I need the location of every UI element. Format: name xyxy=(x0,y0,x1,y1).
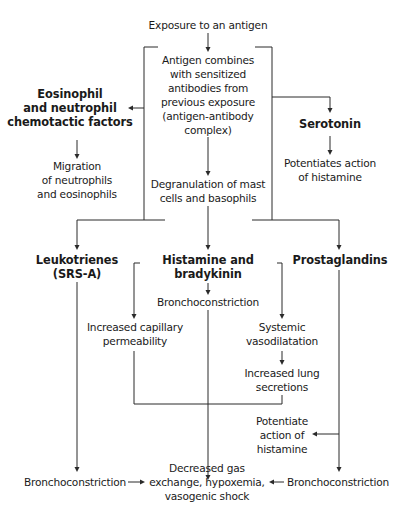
node-bronchoconstriction-center: Bronchoconstriction xyxy=(153,295,263,309)
node-potentiates-action: Potentiates action of histamine xyxy=(280,156,380,184)
node-leukotrienes: Leukotrienes (SRS-A) xyxy=(28,253,126,281)
node-migration: Migration of neutrophils and eosinophils xyxy=(22,159,132,201)
node-systemic-vasodilatation: Systemic vasodilatation xyxy=(240,320,324,348)
node-bronchoconstriction-left: Bronchoconstriction xyxy=(22,475,128,489)
node-antigen-combines: Antigen combines with sensitized antibod… xyxy=(143,53,273,137)
node-increased-lung: Increased lung secretions xyxy=(240,366,324,394)
node-serotonin: Serotonin xyxy=(290,117,370,131)
node-eosinophil-factors: Eosinophil and neutrophil chemotactic fa… xyxy=(2,87,138,129)
node-potentiate-histamine: Potentiate action of histamine xyxy=(252,414,312,456)
node-decreased-gas: Decreased gas exchange, hypoxemia, vasog… xyxy=(145,461,269,503)
node-exposure: Exposure to an antigen xyxy=(138,18,278,32)
node-prostaglandins: Prostaglandins xyxy=(290,253,390,267)
node-increased-capillary: Increased capillary permeability xyxy=(80,320,190,348)
node-degranulation: Degranulation of mast cells and basophil… xyxy=(143,177,273,205)
node-bronchoconstriction-right: Bronchoconstriction xyxy=(285,475,391,489)
anaphylaxis-flowchart: Exposure to an antigen Antigen combines … xyxy=(0,0,407,518)
node-histamine-bradykinin: Histamine and bradykinin xyxy=(152,253,264,281)
